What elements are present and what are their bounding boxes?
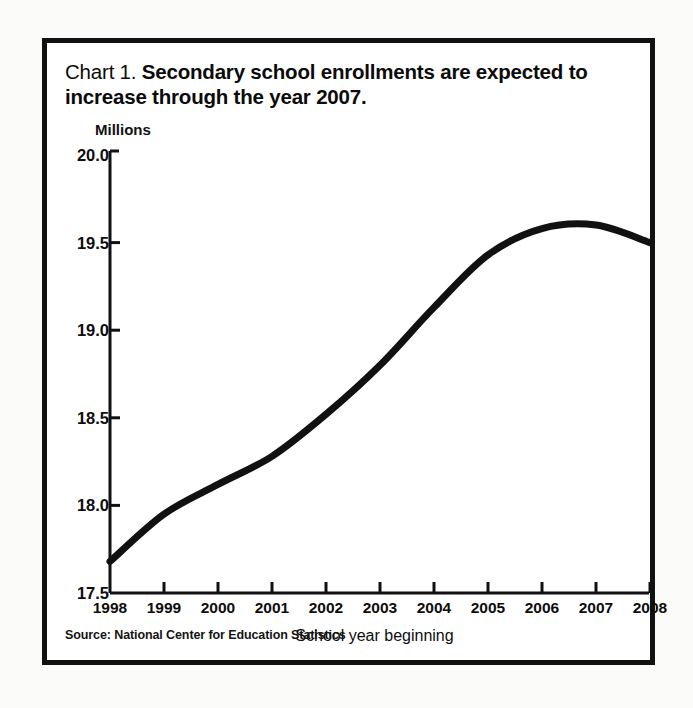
x-axis-tick-label: 2002 [298, 599, 354, 617]
x-axis-tick-label: 2005 [460, 599, 516, 617]
data-series-line [110, 224, 650, 562]
x-axis-tick-label: 2006 [514, 599, 570, 617]
x-axis-tick-label: 2003 [352, 599, 408, 617]
x-axis-tick-label: 1999 [136, 599, 192, 617]
plot-area: Millions 20.019.519.018.518.017.5 199819… [47, 43, 650, 660]
x-axis-tick-label: 2004 [406, 599, 462, 617]
page-background: Chart 1. Secondary school enrollments ar… [0, 0, 693, 708]
x-axis-tick-label: 2000 [190, 599, 246, 617]
chart-figure-frame: Chart 1. Secondary school enrollments ar… [42, 38, 655, 665]
x-axis-tick-label: 2007 [568, 599, 624, 617]
plot-svg [47, 43, 650, 660]
source-note: Source: National Center for Education St… [65, 628, 346, 642]
x-axis-tick-label: 2001 [244, 599, 300, 617]
x-axis-tick-label: 2008 [622, 599, 678, 617]
x-axis-tick-labels: 1998199920002001200220032004200520062007… [47, 599, 650, 625]
chart-figure-inner: Chart 1. Secondary school enrollments ar… [47, 43, 650, 660]
x-axis-tick-label: 1998 [82, 599, 138, 617]
